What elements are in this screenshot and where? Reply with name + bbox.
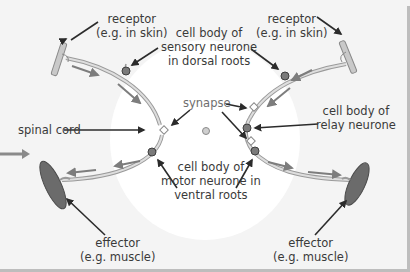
label-line: (e.g. in skin): [96, 26, 168, 40]
effector-right-label: effector (e.g. muscle): [273, 236, 348, 264]
receptor-left-label: receptor (e.g. in skin): [96, 12, 168, 40]
label-line: cell body of: [316, 104, 396, 118]
left-motor-cell-body: [148, 148, 156, 156]
label-line: ventral roots: [161, 188, 261, 202]
label-line: (e.g. muscle): [80, 250, 155, 264]
label-line: sensory neurone: [161, 40, 257, 54]
left-effector-icon: [35, 158, 71, 212]
right-arrow-icon: [0, 149, 30, 159]
label-line: effector: [80, 236, 155, 250]
label-line: motor neurone in: [161, 174, 261, 188]
label-line: (e.g. in skin): [256, 26, 328, 40]
left-motor-neurone: [62, 135, 162, 180]
label-line: in dorsal roots: [161, 54, 257, 68]
label-line: effector: [273, 236, 348, 250]
relay-cell-body-label: cell body of relay neurone: [316, 104, 396, 132]
synapse-label: synapse: [183, 96, 231, 110]
sensory-cell-body-label: cell body of sensory neurone in dorsal r…: [161, 26, 257, 68]
spinal-cord-label: spinal cord: [18, 123, 81, 137]
label-line: (e.g. muscle): [273, 250, 348, 264]
left-synapse-icon: [160, 126, 168, 134]
right-receptor-icon: [339, 40, 357, 74]
relay-cell-body: [243, 124, 251, 132]
central-canal: [203, 128, 210, 135]
left-receptor-icon: [51, 42, 69, 76]
left-sensory-cell-body: [122, 67, 130, 75]
receptor-right-label: receptor (e.g. in skin): [256, 12, 328, 40]
label-line: receptor: [256, 12, 328, 26]
label-line: cell body of: [161, 160, 261, 174]
diagram-frame: receptor (e.g. in skin) cell body of sen…: [0, 0, 410, 272]
label-line: cell body of: [161, 26, 257, 40]
label-line: relay neurone: [316, 118, 396, 132]
label-line: receptor: [96, 12, 168, 26]
right-motor-cell-body: [251, 147, 259, 155]
effector-left-label: effector (e.g. muscle): [80, 236, 155, 264]
right-sensory-cell-body: [281, 72, 289, 80]
motor-cell-body-label: cell body of motor neurone in ventral ro…: [161, 160, 261, 202]
